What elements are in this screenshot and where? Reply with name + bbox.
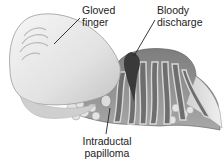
label-bloody-discharge: Bloody discharge xyxy=(157,4,203,28)
label-bloody-line1: Bloody xyxy=(157,4,203,16)
label-papilloma-line1: Intraductal xyxy=(78,135,136,147)
label-papilloma-line2: papilloma xyxy=(78,147,136,159)
label-intraductal-papilloma: Intraductal papilloma xyxy=(78,135,136,159)
label-gloved-line1: Gloved xyxy=(82,4,115,16)
label-gloved-line2: finger xyxy=(82,16,115,28)
label-bloody-line2: discharge xyxy=(157,16,203,28)
label-gloved-finger: Gloved finger xyxy=(82,4,115,28)
breast-exam-illustration: Gloved finger Bloody discharge Intraduct… xyxy=(0,0,224,162)
